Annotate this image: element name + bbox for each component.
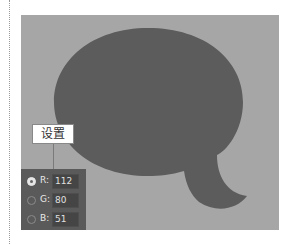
channel-row-g[interactable]: G: 80 <box>21 192 86 210</box>
settings-callout: 设置 <box>32 124 74 144</box>
callout-leader-line <box>53 144 54 170</box>
channel-input-g[interactable]: 80 <box>52 193 79 208</box>
channel-row-b[interactable]: B: 51 <box>21 211 86 229</box>
channel-label-r: R: <box>40 175 49 185</box>
channel-input-b[interactable]: 51 <box>52 212 79 227</box>
channel-label-g: G: <box>40 194 50 204</box>
rgb-color-panel: R: 112 G: 80 B: 51 <box>21 169 86 230</box>
radio-b[interactable] <box>27 215 36 224</box>
channel-row-r[interactable]: R: 112 <box>21 173 86 191</box>
radio-g[interactable] <box>27 196 36 205</box>
channel-label-b: B: <box>40 213 49 223</box>
channel-input-r[interactable]: 112 <box>52 174 79 189</box>
dotted-margin-line <box>9 0 10 244</box>
radio-r[interactable] <box>27 177 36 186</box>
